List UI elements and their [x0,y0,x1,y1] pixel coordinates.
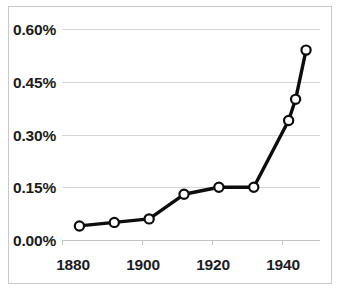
data-point [75,221,84,230]
data-point [291,95,300,104]
series-layer [0,0,348,297]
data-point [214,183,223,192]
line-chart: 0.60% 0.45% 0.30% 0.15% 0.00% 1880 1900 … [0,0,348,297]
data-point [284,116,293,125]
data-point [249,183,258,192]
data-point [301,46,310,55]
data-point [179,190,188,199]
data-point [145,214,154,223]
data-point [110,218,119,227]
series-markers [75,46,311,231]
series-line-path [79,50,306,226]
